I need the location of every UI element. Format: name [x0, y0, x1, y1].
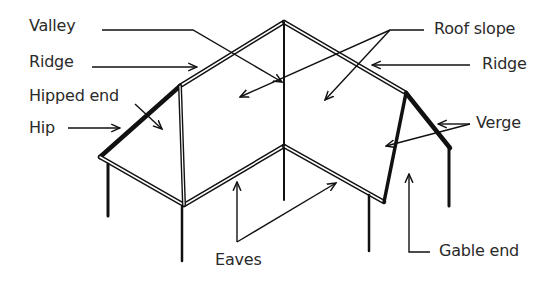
leaders: [68, 30, 470, 252]
label-verge: Verge: [476, 115, 521, 131]
label-gable-end: Gable end: [439, 243, 519, 259]
roof-diagram: Valley Ridge Hipped end Hip Roof slope R…: [0, 0, 557, 281]
label-hip: Hip: [29, 120, 55, 136]
label-ridge-left: Ridge: [29, 54, 74, 70]
label-ridge-right: Ridge: [482, 56, 527, 72]
roof-outline: [100, 22, 450, 205]
walls: [108, 148, 449, 261]
label-eaves: Eaves: [215, 252, 262, 268]
label-hipped-end: Hipped end: [29, 88, 119, 104]
label-valley: Valley: [29, 18, 76, 34]
label-roof-slope: Roof slope: [434, 21, 515, 37]
roof-drawing: [0, 0, 557, 281]
